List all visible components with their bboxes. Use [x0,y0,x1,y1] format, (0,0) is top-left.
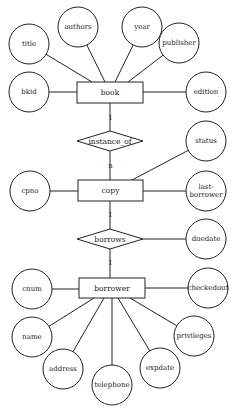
attribute-publisher: publisher [159,23,199,63]
connector-title [46,54,92,82]
attribute-label: year [133,23,150,31]
connector-expdate [118,298,150,351]
attribute-status: status [186,121,226,161]
er-diagram-canvas: 1n11 titleauthorsyearpublisherbkideditio… [0,0,233,413]
entity-borrower: borrower [79,278,145,298]
entity-book: book [77,82,143,103]
attribute-title: title [9,24,49,64]
attribute-cpno: cpno [10,171,50,211]
connector-publisher [128,55,163,82]
attribute-label: duedate [192,235,221,243]
attribute-label: status [195,137,217,145]
attribute-telephone: telephone [92,365,132,405]
entity-label: book [101,88,120,97]
connector-authors [87,45,105,82]
attribute-label: cnum [22,285,42,293]
connector-status [132,150,188,180]
er-diagram: 1n11 titleauthorsyearpublisherbkideditio… [0,0,233,413]
attribute-label: telephone [94,381,129,389]
attribute-lastborrower: last-borrower [186,171,226,211]
attribute-privileges: privileges [174,316,214,356]
attribute-year: year [122,7,162,47]
attribute-cnum: cnum [12,269,52,309]
relationship-label: instance_of [88,137,132,146]
attribute-label: expdate [146,364,174,372]
attribute-label: title [22,40,36,48]
attribute-name: name [12,317,52,357]
attribute-label: edition [194,88,219,96]
attribute-address: address [43,349,83,389]
attribute-label: bkid [21,88,37,96]
attribute-label: borrower [189,191,223,199]
connector-year [115,45,133,82]
entity-label: copy [102,186,121,195]
entity-copy: copy [78,180,143,201]
attribute-duedate: duedate [186,219,226,259]
attribute-label: address [49,365,77,373]
connector-name [49,298,94,326]
attribute-label: publisher [162,39,196,47]
entity-label: borrower [94,284,130,293]
attribute-edition: edition [186,72,226,112]
attributes: titleauthorsyearpublisherbkideditionstat… [9,7,229,405]
relationship-instance_of: instance_of [77,131,143,151]
attribute-checkedout: checkedout [188,268,229,308]
cardinality-label: n [108,162,113,170]
attribute-bkid: bkid [9,72,49,112]
relationship-label: borrows [94,235,125,244]
relationship-borrows: borrows [77,229,143,249]
attribute-expdate: expdate [140,348,180,388]
attribute-label: name [22,333,41,341]
attribute-label: cpno [21,187,38,195]
connector-privileges [130,298,177,326]
attribute-label: authors [64,23,92,31]
attribute-label: last- [198,183,214,191]
cardinality-label: 1 [108,211,112,219]
attribute-label: privileges [177,332,212,340]
attribute-authors: authors [58,7,98,47]
cardinality-label: 1 [108,114,112,122]
connector-address [73,298,104,352]
cardinality-label: 1 [108,259,112,267]
attribute-label: checkedout [188,284,229,292]
